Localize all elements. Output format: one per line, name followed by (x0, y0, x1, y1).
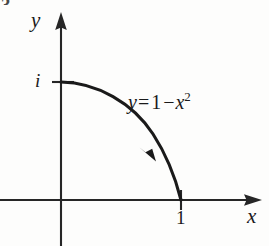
equation-variable: x (175, 91, 184, 113)
y-axis-arrowhead (55, 12, 67, 30)
curve-direction-arrowhead (140, 148, 157, 162)
equation-exponent: 2 (184, 89, 191, 104)
x-intercept-tick-label: 1 (176, 208, 186, 227)
graph-canvas (0, 0, 269, 246)
equation-equals: = (137, 91, 150, 113)
equation-minus: − (162, 91, 175, 113)
y-axis-label: y (31, 10, 40, 31)
equation-lhs: y (128, 91, 137, 113)
x-axis-label: x (247, 206, 256, 227)
y-intercept-tick-label: i (35, 71, 40, 90)
math-figure: 3. y x i 1 y=1−x2 (0, 0, 269, 246)
curve-equation-label: y=1−x2 (128, 90, 191, 112)
equation-constant: 1 (150, 91, 162, 113)
